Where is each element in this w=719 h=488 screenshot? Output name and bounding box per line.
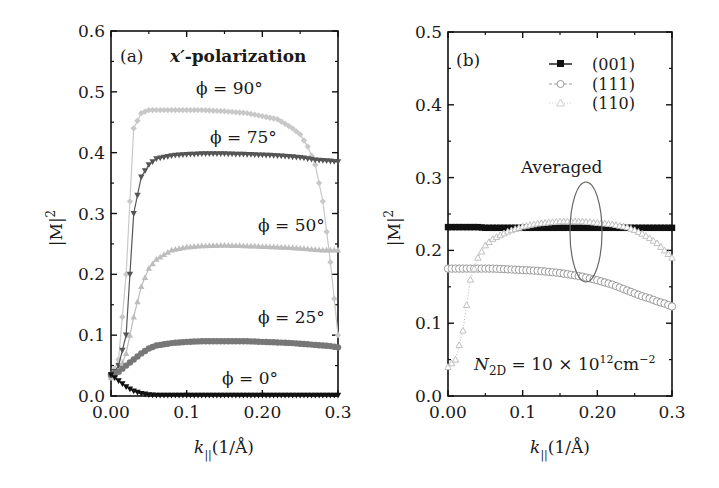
legend-circle-marker-icon [557, 81, 564, 88]
panel-a-ylabel: |M|2 [44, 210, 66, 247]
y-tick-label: 0.3 [78, 204, 105, 224]
panel-b: 0.00.10.20.30.40.50.000.10.200.3 (b) (00… [382, 22, 686, 462]
curve-label-phi-90: ϕ = 90° [196, 78, 263, 98]
panel-b-ylabel: |M|2 [382, 210, 404, 247]
panel-b-xlabel: k||(1/Å) [530, 437, 590, 462]
y-tick-label: 0.1 [415, 313, 442, 333]
panel-a: 0.00.10.20.30.40.50.60.000.10.200.3 (a) … [44, 21, 352, 462]
x-tick-label: 0.3 [324, 402, 351, 422]
y-tick-label: 0.5 [415, 22, 442, 42]
legend-item-111: (111) [592, 75, 635, 94]
panel-a-title: x′-polarization [169, 46, 306, 66]
panel-b-series [444, 218, 675, 369]
x-tick-label: 0.20 [243, 402, 281, 422]
curve-label-phi-75: ϕ = 75° [210, 127, 277, 147]
x-tick-label: 0.3 [658, 402, 685, 422]
panel-a-series [108, 107, 341, 399]
y-tick-label: 0.3 [415, 168, 442, 188]
x-tick-label: 0.1 [509, 402, 536, 422]
series--111- [444, 265, 675, 310]
panel-a-label: (a) [120, 46, 143, 66]
x-tick-label: 0.1 [173, 402, 200, 422]
legend: (001) (111) (110) [549, 55, 635, 113]
x-tick-label: 0.00 [92, 402, 130, 422]
y-tick-label: 0.2 [78, 264, 105, 284]
averaged-ellipse [570, 182, 602, 282]
y-tick-label: 0.1 [78, 325, 105, 345]
legend-item-110: (110) [592, 94, 635, 113]
panel-b-label: (b) [456, 50, 480, 70]
averaged-label: Averaged [520, 157, 602, 177]
y-tick-label: 0.4 [78, 143, 105, 163]
series--001- [445, 224, 675, 231]
y-tick-label: 0.2 [415, 240, 442, 260]
x-tick-label: 0.20 [578, 402, 616, 422]
legend-square-marker-icon [557, 60, 564, 67]
y-tick-label: 0.6 [78, 21, 105, 41]
panel-a-xlabel: k||(1/Å) [194, 437, 254, 462]
legend-triangle-marker-icon [557, 99, 565, 106]
y-tick-label: 0.5 [78, 82, 105, 102]
density-annotation: N2D = 10 × 1012cm−2 [473, 353, 655, 378]
curve-label-phi-0: ϕ = 0° [222, 368, 278, 388]
figure: 0.00.10.20.30.40.50.60.000.10.200.3 (a) … [0, 0, 719, 488]
curve-label-phi-50: ϕ = 50° [258, 215, 325, 235]
curve-label-phi-25: ϕ = 25° [258, 307, 325, 327]
legend-item-001: (001) [592, 55, 635, 74]
y-tick-label: 0.4 [415, 95, 442, 115]
x-tick-label: 0.00 [429, 402, 467, 422]
